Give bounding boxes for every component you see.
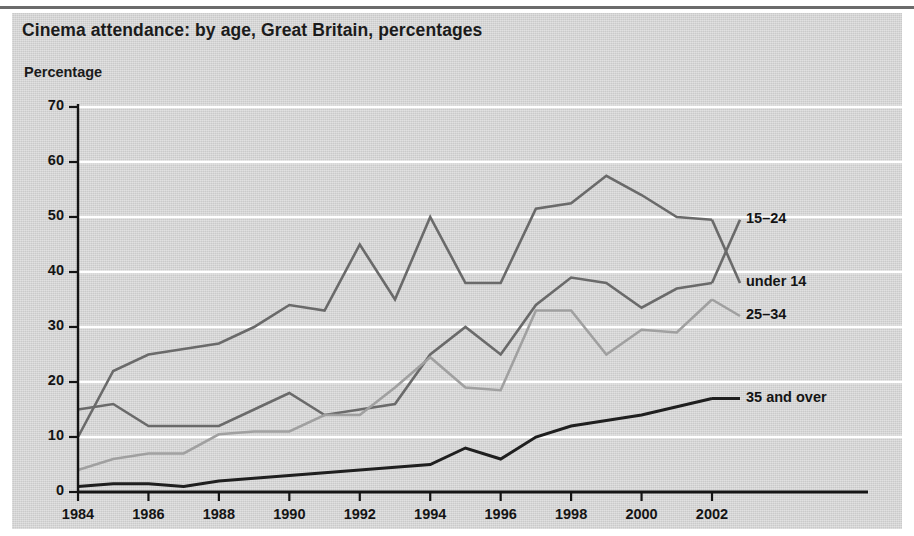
y-tick-label: 50 xyxy=(48,207,64,223)
label-leader-lines-group xyxy=(712,220,740,399)
series-label: 35 and over xyxy=(746,389,827,405)
series-label: 25–34 xyxy=(746,306,786,322)
y-tick-label: 20 xyxy=(48,372,64,388)
x-tick-label: 1986 xyxy=(118,506,178,522)
x-tick-label: 1984 xyxy=(48,506,108,522)
y-tick-label: 10 xyxy=(48,427,64,443)
series-line-35-and-over xyxy=(78,399,712,487)
x-tick-label: 2000 xyxy=(612,506,672,522)
series-lines-group xyxy=(78,176,712,487)
y-axis-title: Percentage xyxy=(24,64,102,80)
x-tick-label: 1988 xyxy=(189,506,249,522)
y-tick-label: 70 xyxy=(48,97,64,113)
x-tick-label: 1996 xyxy=(471,506,531,522)
series-label: under 14 xyxy=(746,273,806,289)
y-tick-label: 60 xyxy=(48,152,64,168)
series-line-25-34 xyxy=(78,300,712,471)
x-tick-label: 1992 xyxy=(330,506,390,522)
x-tick-label: 1990 xyxy=(259,506,319,522)
gridlines-group xyxy=(78,107,902,437)
x-tick-label: 1998 xyxy=(541,506,601,522)
x-tick-label: 1994 xyxy=(400,506,460,522)
y-tick-label: 40 xyxy=(48,262,64,278)
series-label: 15–24 xyxy=(746,210,786,226)
chart-figure: Cinema attendance: by age, Great Britain… xyxy=(0,0,914,536)
leader-line-25-34 xyxy=(712,300,740,317)
plot-area xyxy=(0,0,914,536)
axis-ticks-group xyxy=(69,107,712,501)
x-tick-label: 2002 xyxy=(682,506,742,522)
y-tick-label: 0 xyxy=(56,482,64,498)
chart-title: Cinema attendance: by age, Great Britain… xyxy=(22,20,482,41)
series-line-under-14 xyxy=(78,176,712,437)
y-tick-label: 30 xyxy=(48,317,64,333)
